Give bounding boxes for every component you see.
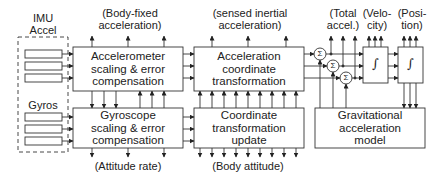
coord-update-block-text: Coordinate transformation update bbox=[194, 108, 304, 148]
accelerometer-line-3: compensation bbox=[92, 75, 164, 88]
accel-sensor-3 bbox=[25, 74, 62, 82]
accelerometer-line-1: Accelerometer bbox=[91, 50, 165, 63]
accel-transform-line-2: coordinate bbox=[222, 63, 276, 76]
accelerometer-line-2: scaling & error bbox=[91, 63, 165, 76]
integrator-position-symbol: ∫ bbox=[398, 56, 423, 71]
accel-transform-line-3: transformation bbox=[212, 75, 286, 88]
sum-symbol-1: Σ bbox=[314, 48, 326, 60]
coord-update-line-2: transformation bbox=[212, 122, 286, 135]
body-attitude-label: (Body attitude) bbox=[198, 160, 298, 172]
body-fixed-accel-label-1: (Body-fixed bbox=[80, 7, 180, 19]
coord-update-line-3: update bbox=[231, 134, 266, 147]
gyroscope-line-3: compensation bbox=[92, 134, 164, 147]
total-accel-label-1: (Total bbox=[322, 7, 364, 19]
accelerometer-block-text: Accelerometer scaling & error compensati… bbox=[73, 47, 183, 91]
coord-update-line-1: Coordinate bbox=[221, 109, 277, 122]
sum-symbol-2: Σ bbox=[327, 60, 339, 72]
velocity-label-1: (Velo- bbox=[359, 7, 395, 19]
body-fixed-accel-label-2: acceleration) bbox=[80, 19, 180, 31]
accel-sensor-2 bbox=[25, 62, 62, 70]
imu-dashed-box bbox=[18, 37, 68, 152]
gyroscope-line-2: scaling & error bbox=[91, 122, 165, 135]
gyro-sensor-2 bbox=[25, 125, 62, 133]
sum-symbol-3: Σ bbox=[340, 72, 352, 84]
sensed-inertial-accel-label-2: acceleration) bbox=[200, 19, 300, 31]
accel-transform-block-text: Acceleration coordinate transformation bbox=[194, 47, 304, 91]
attitude-rate-label: (Attitude rate) bbox=[78, 160, 178, 172]
gravity-line-1: Gravitational bbox=[338, 109, 403, 122]
gyro-sensor-3 bbox=[25, 137, 62, 145]
gravity-block-text: Gravitational acceleration model bbox=[315, 108, 425, 148]
gyros-label: Gyros bbox=[18, 99, 68, 111]
position-label-1: (Posi- bbox=[394, 7, 430, 19]
gyroscope-block-text: Gyroscope scaling & error compensation bbox=[73, 108, 183, 148]
gravity-line-3: model bbox=[354, 134, 385, 147]
position-label-2: tion) bbox=[394, 19, 430, 31]
sensed-inertial-accel-label-1: (sensed inertial bbox=[200, 7, 300, 19]
velocity-label-2: city) bbox=[359, 19, 395, 31]
gravity-line-2: acceleration bbox=[339, 122, 401, 135]
gyro-sensor-1 bbox=[25, 113, 62, 121]
accel-sensor-1 bbox=[25, 50, 62, 58]
accel-label: Accel bbox=[18, 24, 68, 36]
gyroscope-line-1: Gyroscope bbox=[100, 109, 156, 122]
imu-title: IMU bbox=[18, 12, 68, 24]
accel-transform-line-1: Acceleration bbox=[217, 50, 280, 63]
integrator-velocity-symbol: ∫ bbox=[363, 56, 388, 71]
total-accel-label-2: accel.) bbox=[322, 19, 364, 31]
